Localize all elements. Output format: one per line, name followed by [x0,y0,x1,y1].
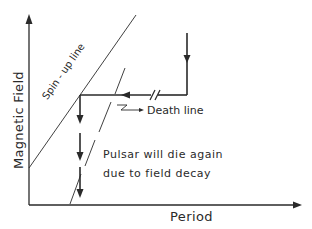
death-line [70,68,125,204]
death-line-label: Death line [147,104,204,117]
pointer-arrow-icon [139,108,144,112]
x-axis-arrow-icon [293,202,302,209]
left-arrow-icon [121,92,130,99]
y-axis-label: Magnetic Field [11,71,26,169]
down-arrow-icon [77,189,84,198]
y-axis [26,14,33,205]
pulsar-evolution-diagram: Magnetic Field Period Spin - up line Dea… [0,0,312,229]
y-axis-arrow-icon [26,14,33,24]
annotation-line-2: due to field decay [103,167,211,180]
down-arrow-icon [184,55,191,63]
down-arrow-icon [77,152,84,161]
death-line-pointer [117,105,139,110]
annotation-line-1: Pulsar will die again [103,148,223,161]
x-axis [29,202,302,209]
x-axis-label: Period [170,209,213,224]
spin-down-path [80,90,187,100]
down-arrow-icon [77,115,84,124]
